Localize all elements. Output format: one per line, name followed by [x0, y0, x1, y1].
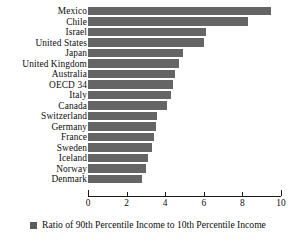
bar-track [88, 122, 281, 130]
legend-swatch-icon [30, 222, 37, 229]
category-label: Germany [51, 122, 87, 132]
bar-track [88, 101, 281, 109]
bar-track [88, 133, 281, 141]
bar [88, 80, 173, 88]
bar-row: Canada [0, 101, 296, 112]
bar-row: Japan [0, 48, 296, 59]
bar [88, 49, 183, 57]
bar-track [88, 49, 281, 57]
bar-track [88, 28, 281, 36]
bar-row: Mexico [0, 6, 296, 17]
bar-track [88, 38, 281, 46]
bar-track [88, 80, 281, 88]
x-axis-right-cap [281, 190, 282, 196]
bar-track [88, 143, 281, 151]
category-label: Canada [58, 101, 87, 111]
bar-chart: MexicoChileIsraelUnited StatesJapanUnite… [0, 0, 296, 243]
bar [88, 133, 154, 141]
x-axis-tick [204, 192, 205, 197]
legend-label: Ratio of 90th Percentile Income to 10th … [42, 219, 266, 231]
category-label: United States [35, 38, 87, 48]
bar [88, 70, 175, 78]
x-axis-tick [242, 192, 243, 197]
bar-row: Denmark [0, 174, 296, 185]
x-axis-tick [127, 192, 128, 197]
bar-track [88, 112, 281, 120]
bar [88, 112, 157, 120]
category-label: Denmark [51, 174, 87, 184]
bar-track [88, 59, 281, 67]
plot-area: MexicoChileIsraelUnited StatesJapanUnite… [0, 0, 296, 215]
bar-track [88, 175, 281, 183]
bar [88, 59, 179, 67]
bar-track [88, 7, 281, 15]
category-label: Italy [69, 90, 87, 100]
bar [88, 154, 148, 162]
x-axis-tick-label: 0 [86, 198, 91, 209]
x-axis-tick-label: 6 [201, 198, 206, 209]
bar [88, 175, 142, 183]
bar [88, 164, 146, 172]
bar-row: United States [0, 38, 296, 49]
category-label: Sweden [57, 143, 87, 153]
x-axis-tick-label: 2 [124, 198, 129, 209]
category-label: Mexico [58, 6, 87, 16]
category-label: Switzerland [41, 111, 87, 121]
bar [88, 28, 206, 36]
bar-row: OECD 34 [0, 80, 296, 91]
bar-row: Iceland [0, 153, 296, 164]
bar-track [88, 91, 281, 99]
x-axis-tick [165, 192, 166, 197]
x-axis-line [88, 196, 281, 197]
bar-row: Italy [0, 90, 296, 101]
bar-rows: MexicoChileIsraelUnited StatesJapanUnite… [0, 6, 296, 185]
x-axis-tick-label: 10 [276, 198, 285, 209]
bar [88, 17, 248, 25]
x-axis-left-cap [88, 190, 89, 196]
category-label: Norway [56, 164, 87, 174]
bar-track [88, 154, 281, 162]
bar-track [88, 70, 281, 78]
category-label: Israel [66, 27, 87, 37]
chart-legend: Ratio of 90th Percentile Income to 10th … [0, 219, 296, 231]
bar [88, 122, 156, 130]
x-axis-tick-label: 4 [163, 198, 168, 209]
category-label: United Kingdom [22, 59, 87, 69]
category-label: Australia [52, 69, 87, 79]
bar-row: France [0, 132, 296, 143]
bar [88, 91, 171, 99]
category-label: France [61, 132, 87, 142]
bar [88, 38, 204, 46]
bar [88, 101, 167, 109]
category-label: OECD 34 [49, 80, 87, 90]
bar-row: Sweden [0, 143, 296, 154]
bar-row: Norway [0, 164, 296, 175]
bar-track [88, 164, 281, 172]
bar-row: Chile [0, 17, 296, 28]
x-axis-tick-label: 8 [240, 198, 245, 209]
bar [88, 7, 271, 15]
category-label: Iceland [59, 153, 87, 163]
category-label: Chile [66, 17, 87, 27]
category-label: Japan [65, 48, 87, 58]
bar-row: Australia [0, 69, 296, 80]
bar-row: Switzerland [0, 111, 296, 122]
bar-row: Germany [0, 122, 296, 133]
bar-track [88, 17, 281, 25]
bar-row: United Kingdom [0, 59, 296, 70]
bar-row: Israel [0, 27, 296, 38]
bar [88, 143, 152, 151]
